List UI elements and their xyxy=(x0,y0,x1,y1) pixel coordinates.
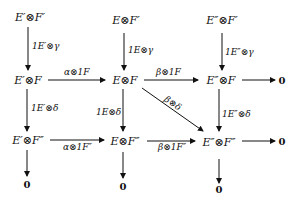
label-1e-prime-delta: 1E′⊗δ xyxy=(31,104,58,113)
node-e-prime-tensor-f-prime: E′⊗F′ xyxy=(15,12,45,23)
node-zero-col2: 0 xyxy=(120,182,127,192)
node-e-double-prime-tensor-f-prime: E″⊗F′ xyxy=(206,15,238,26)
node-zero-row3: 0 xyxy=(279,137,286,147)
node-e-tensor-f-prime: E⊗F′ xyxy=(112,15,139,26)
node-e-prime-tensor-f: E′⊗F xyxy=(14,75,41,86)
node-e-prime-tensor-f-double-prime: E′⊗F″ xyxy=(12,135,44,146)
node-e-tensor-f: E⊗F xyxy=(113,75,138,86)
label-1e-prime-gamma: 1E′⊗γ xyxy=(32,42,59,51)
label-1e-double-prime-delta: 1E″⊗δ xyxy=(222,110,251,119)
node-zero-col1: 0 xyxy=(24,180,31,190)
node-zero-row2: 0 xyxy=(279,76,286,86)
node-e-double-prime-tensor-f-double-prime: E″⊗F″ xyxy=(202,137,235,148)
node-zero-col3: 0 xyxy=(216,185,223,195)
node-e-double-prime-tensor-f: E″⊗F xyxy=(207,75,236,86)
label-beta-1f: β⊗1F xyxy=(156,68,181,77)
label-alpha-1f-double-prime: α⊗1F″ xyxy=(63,143,92,152)
label-1e-delta: 1E⊗δ xyxy=(96,108,121,117)
label-1e-double-prime-gamma: 1E″⊗γ xyxy=(225,48,254,57)
label-beta-1f-double-prime: β⊗1F″ xyxy=(158,143,186,152)
label-1e-gamma: 1E⊗γ xyxy=(128,46,153,55)
label-alpha-1f: α⊗1F xyxy=(64,68,90,77)
node-e-tensor-f-double-prime: E⊗F″ xyxy=(111,136,140,147)
